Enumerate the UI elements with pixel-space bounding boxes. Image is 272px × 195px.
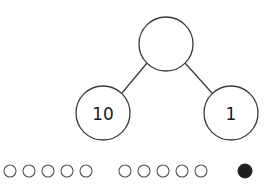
whole-circle	[139, 17, 193, 71]
empty-counter-icon	[157, 165, 169, 177]
empty-counter-icon	[42, 165, 54, 177]
part-label-right: 1	[226, 104, 237, 124]
empty-counter-icon	[195, 165, 207, 177]
empty-counter-icon	[138, 165, 150, 177]
empty-counter-icon	[80, 165, 92, 177]
empty-counter-icon	[23, 165, 35, 177]
empty-counter-icon	[119, 165, 131, 177]
number-bond-diagram: 10 1	[0, 0, 272, 195]
empty-counter-icon	[176, 165, 188, 177]
empty-counter-icon	[61, 165, 73, 177]
filled-counter-icon	[238, 164, 252, 178]
link-whole-to-right-part	[185, 63, 212, 93]
part-label-left: 10	[92, 104, 114, 124]
empty-counter-icon	[4, 165, 16, 177]
ten-group-2	[119, 165, 207, 177]
one-group	[238, 164, 252, 178]
link-whole-to-left-part	[122, 63, 147, 93]
counters-row	[4, 164, 252, 178]
ten-group-1	[4, 165, 92, 177]
